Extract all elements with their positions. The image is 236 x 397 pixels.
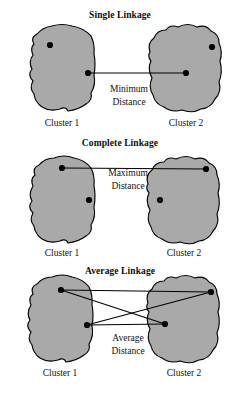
linkage-methods-figure: Single LinkageMinimumDistanceCluster 1Cl…	[0, 0, 236, 397]
right-top-point	[208, 289, 214, 295]
left-outlier-point	[47, 42, 53, 48]
right-farthest-point	[203, 166, 209, 172]
right-cluster-label: Cluster 2	[167, 248, 202, 258]
figure-canvas: Single LinkageMinimumDistanceCluster 1Cl…	[0, 0, 236, 397]
right-inner-point	[157, 197, 163, 203]
right-cluster-blob	[147, 276, 220, 363]
distance-label-line2: Distance	[111, 181, 144, 191]
left-cluster-blob	[30, 25, 95, 112]
distance-label-line1: Minimum	[110, 84, 149, 94]
distance-label-line1: Maximum	[108, 168, 148, 178]
left-cluster-label: Cluster 1	[45, 248, 80, 258]
left-farthest-point	[59, 165, 65, 171]
panel-title-complete-linkage: Complete Linkage	[82, 138, 158, 148]
right-nearest-point	[183, 70, 189, 76]
right-cluster-blob	[149, 25, 222, 112]
left-top-point	[58, 287, 64, 293]
right-bottom-point	[162, 321, 168, 327]
right-cluster-label: Cluster 2	[169, 118, 204, 128]
distance-label-line1: Average	[112, 333, 143, 343]
left-bottom-point	[84, 322, 90, 328]
panel-title-single-linkage: Single Linkage	[89, 10, 151, 20]
right-cluster-label: Cluster 2	[167, 368, 202, 378]
left-cluster-label: Cluster 1	[45, 118, 80, 128]
distance-label-line2: Distance	[111, 346, 144, 356]
right-outlier-point	[209, 44, 215, 50]
left-nearest-point	[85, 70, 91, 76]
left-inner-point	[86, 197, 92, 203]
distance-label-line2: Distance	[112, 97, 145, 107]
left-cluster-label: Cluster 1	[43, 368, 78, 378]
panel-title-average-linkage: Average Linkage	[85, 266, 155, 276]
